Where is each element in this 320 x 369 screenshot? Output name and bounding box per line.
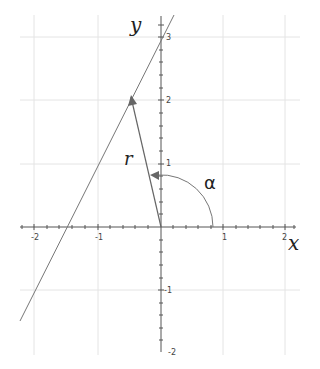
x-tick-label: -1 — [95, 233, 103, 242]
x-axis — [20, 224, 296, 230]
x-tick-label: 2 — [282, 233, 287, 242]
coordinate-plane: -2 -1 1 2 3 2 1 -1 -2 y x r α — [0, 0, 320, 369]
vector-label: r — [124, 148, 134, 169]
y-axis-label: y — [129, 13, 142, 37]
vector-r — [128, 95, 161, 227]
y-axis — [158, 16, 164, 352]
y-tick-label: -2 — [168, 348, 176, 357]
x-tick-label: -2 — [31, 233, 39, 242]
x-axis-label: x — [288, 231, 299, 255]
angle-label: α — [204, 172, 216, 193]
y-tick-label: 1 — [166, 159, 171, 168]
y-tick-label: -1 — [164, 286, 172, 295]
y-tick-label: 3 — [166, 33, 171, 42]
line-graph — [20, 15, 174, 321]
arc-arrowhead-icon — [150, 171, 159, 180]
y-tick-label: 2 — [166, 96, 171, 105]
grid — [20, 15, 300, 355]
x-tick-label: 1 — [222, 233, 227, 242]
